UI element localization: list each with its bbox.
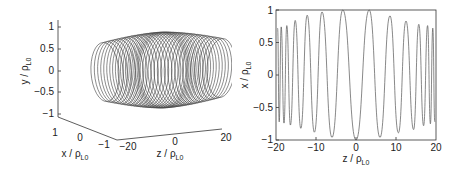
x-ticks: −20 −10 0 10 20 bbox=[268, 137, 442, 153]
x-vs-z-svg: 1 0.5 0 −0.5 −1 −20 −10 0 10 20 z / ρL0 … bbox=[232, 0, 457, 172]
svg-text:20: 20 bbox=[220, 132, 232, 143]
svg-text:−20: −20 bbox=[120, 141, 137, 152]
z-axis-label: z / ρL0 bbox=[157, 148, 184, 161]
y-tick-label: 0.5 bbox=[40, 43, 54, 54]
y-tick-label: 1 bbox=[48, 21, 54, 32]
svg-text:20: 20 bbox=[430, 142, 442, 153]
trajectory-3d-svg: 1 0.5 0 −0.5 −1 y / ρL0 1 0 −1 x / ρL0 −… bbox=[0, 0, 232, 172]
y-axis-label: x / ρL0 bbox=[239, 61, 252, 88]
svg-text:10: 10 bbox=[390, 142, 402, 153]
svg-text:−10: −10 bbox=[308, 142, 325, 153]
y-tick-label: −1 bbox=[43, 108, 55, 119]
x-vs-z-line bbox=[278, 10, 435, 140]
svg-text:x / ρL0: x / ρL0 bbox=[239, 61, 252, 88]
y-tick-label: 0 bbox=[48, 65, 54, 76]
svg-text:0: 0 bbox=[172, 136, 178, 147]
y-ticks: 1 0.5 0 −0.5 −1 bbox=[253, 5, 279, 145]
trajectory-3d-plot: 1 0.5 0 −0.5 −1 y / ρL0 1 0 −1 x / ρL0 −… bbox=[0, 0, 232, 172]
svg-text:−0.5: −0.5 bbox=[253, 102, 273, 113]
x-axis-label: z / ρL0 bbox=[343, 153, 370, 166]
x-ticks: 1 0 −1 bbox=[52, 127, 110, 150]
x-vs-z-plot: 1 0.5 0 −0.5 −1 −20 −10 0 10 20 z / ρL0 … bbox=[232, 0, 457, 172]
svg-text:1: 1 bbox=[52, 127, 58, 138]
z-ticks: −20 0 20 bbox=[120, 132, 232, 152]
trajectory-helix bbox=[89, 32, 232, 109]
svg-text:0.5: 0.5 bbox=[259, 37, 273, 48]
x-axis-label: x / ρL0 bbox=[62, 148, 89, 161]
svg-text:0: 0 bbox=[77, 132, 83, 143]
svg-text:y / ρL0: y / ρL0 bbox=[19, 57, 32, 84]
svg-text:0: 0 bbox=[267, 69, 273, 80]
svg-text:0: 0 bbox=[353, 142, 359, 153]
y-tick-label: −0.5 bbox=[34, 86, 54, 97]
svg-text:−20: −20 bbox=[268, 142, 285, 153]
y-ticks: 1 0.5 0 −0.5 −1 bbox=[34, 21, 61, 119]
svg-text:1: 1 bbox=[267, 5, 273, 16]
y-axis-label: y / ρL0 bbox=[19, 57, 32, 84]
svg-text:−1: −1 bbox=[98, 139, 110, 150]
